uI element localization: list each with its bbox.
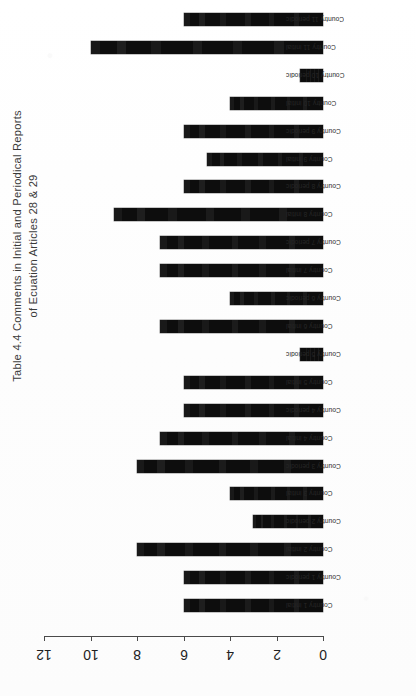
bar-row: [44, 453, 323, 481]
scanned-page: Table 4.4 Comments in Initial and Period…: [0, 0, 416, 696]
chart-title-line-1: Table 4.4 Comments in Initial and Period…: [11, 110, 23, 382]
x-axis-tick-label: 6: [172, 644, 196, 666]
category-label: Country 2 initial: [286, 543, 406, 555]
bar-row: [44, 536, 323, 564]
bar-row: [44, 229, 323, 257]
bar-row: [44, 201, 323, 229]
plot-area: [44, 6, 323, 620]
bar-row: [44, 285, 323, 313]
x-axis-tick: [44, 636, 45, 641]
category-label: Country 4 periodic: [286, 404, 406, 416]
bar-row: [44, 118, 323, 146]
x-axis-tick: [137, 636, 138, 641]
category-label: Country 11 periodic: [286, 13, 406, 25]
bar-row: [44, 369, 323, 397]
category-label: Country 11 initial: [286, 41, 406, 53]
bar-row: [44, 341, 323, 369]
bar-row: [44, 397, 323, 425]
bar-row: [44, 173, 323, 201]
category-label: Country 6 periodic: [286, 292, 406, 304]
category-label: Country 3 periodic: [286, 460, 406, 472]
category-label: Country 8 initial: [286, 208, 406, 220]
bar-row: [44, 508, 323, 536]
category-label: Country 1 periodic: [286, 571, 406, 583]
category-label: Country 10 periodic: [286, 69, 406, 81]
category-label: Country 7 periodic: [286, 236, 406, 248]
x-axis-tick-label: 4: [218, 644, 242, 666]
x-axis-tick: [230, 636, 231, 641]
category-label: Country 3 initial: [286, 487, 406, 499]
bar-row: [44, 62, 323, 90]
x-axis-tick: [323, 636, 324, 641]
x-axis-tick-label: 8: [125, 644, 149, 666]
bar-row: [44, 425, 323, 453]
bar-row: [44, 480, 323, 508]
x-axis-tick-label: 10: [79, 644, 103, 666]
chart-title-line-2: of Ecuation Articles 28 & 29: [26, 96, 42, 396]
category-label: Country 9 initial: [286, 153, 406, 165]
bar-row: [44, 34, 323, 62]
bar-row: [44, 146, 323, 174]
category-label: Country 1 initial: [286, 599, 406, 611]
bar-row: [44, 313, 323, 341]
bar-row: [44, 90, 323, 118]
category-label: Country 8 periodic: [286, 180, 406, 192]
x-axis-tick-label: 2: [265, 644, 289, 666]
x-axis-tick: [277, 636, 278, 641]
x-axis-tick-label: 12: [32, 644, 56, 666]
category-label: Country 4 initial: [286, 432, 406, 444]
category-label: Country 10 initial: [286, 97, 406, 109]
x-axis-tick: [91, 636, 92, 641]
bar-row: [44, 564, 323, 592]
category-label: Country 5 periodic: [286, 348, 406, 360]
bar-row: [44, 592, 323, 620]
category-label: Country 6 initial: [286, 320, 406, 332]
category-label: Country 5 initial: [286, 376, 406, 388]
x-axis-tick: [184, 636, 185, 641]
x-axis-tick-label: 0: [311, 644, 335, 666]
bar-row: [44, 257, 323, 285]
category-label: Country 2 periodic: [286, 515, 406, 527]
category-label: Country 7 initial: [286, 264, 406, 276]
category-label: Country 9 periodic: [286, 125, 406, 137]
bar-row: [44, 6, 323, 34]
